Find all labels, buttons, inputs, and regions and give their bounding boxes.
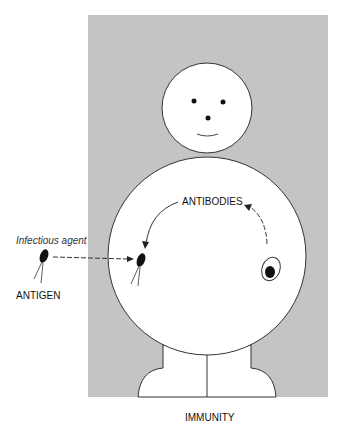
immunity-diagram (0, 0, 343, 433)
caption: IMMUNITY (185, 412, 234, 423)
head-circle (162, 63, 252, 153)
left-eye (192, 99, 197, 104)
antigen-external-icon (38, 248, 50, 264)
antibodies-label: ANTIBODIES (182, 196, 243, 207)
body-circle (108, 157, 306, 355)
infectious-agent-label: Infectious agent (16, 235, 87, 246)
antigen-label: ANTIGEN (16, 290, 60, 301)
nose (206, 116, 211, 121)
right-eye (221, 100, 226, 105)
